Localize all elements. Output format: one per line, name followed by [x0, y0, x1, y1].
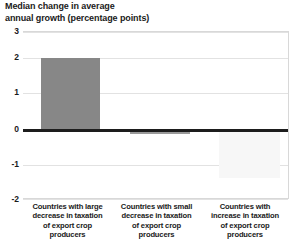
bar-increase: [219, 132, 280, 178]
chart-container: Median change in average annual growth (…: [0, 0, 296, 240]
bar-large-decrease: [41, 58, 100, 130]
y-tick-label-1: 1: [0, 88, 19, 96]
y-tick-label-3: 3: [0, 27, 19, 35]
gridline-3: [23, 32, 288, 33]
category-label-increase: Countries with increase in taxation of e…: [201, 202, 289, 240]
zero-baseline: [23, 129, 288, 132]
y-tick-label-neg1: -1: [0, 160, 19, 168]
y-tick-label-0: 0: [0, 125, 19, 133]
y-tick-label-2: 2: [0, 53, 19, 61]
plot-area: [23, 31, 289, 199]
gridline-neg2: [23, 199, 288, 200]
category-axis: Countries with large decrease in taxatio…: [23, 202, 289, 240]
chart-title: Median change in average annual growth (…: [5, 1, 285, 24]
category-label-large-decrease: Countries with large decrease in taxatio…: [23, 202, 112, 240]
y-tick-label-neg2: -2: [0, 195, 19, 203]
bar-small-decrease: [130, 132, 190, 134]
category-label-small-decrease: Countries with small decrease in taxatio…: [112, 202, 201, 240]
